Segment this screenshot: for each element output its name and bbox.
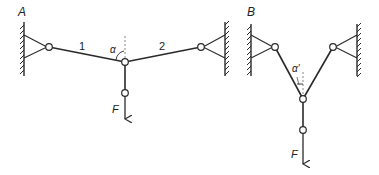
angle-alpha-label: α xyxy=(110,44,116,55)
hinge-icon xyxy=(330,44,337,51)
panel-b-label: B xyxy=(247,5,255,19)
left-wall-support-b xyxy=(247,24,273,76)
angle-alpha-prime-label: α′ xyxy=(292,63,301,74)
panel-a: A 1 2 α F xyxy=(17,5,229,119)
right-wall-support-a xyxy=(203,21,229,76)
bar-2-b xyxy=(303,47,333,99)
angle-arc-a xyxy=(116,51,124,60)
load-hinge-icon xyxy=(300,127,307,134)
hinge-icon xyxy=(198,44,205,51)
force-label-b: F xyxy=(291,148,299,160)
node-hinge-icon xyxy=(122,59,129,66)
load-hinge-icon xyxy=(122,90,129,97)
right-wall-support-b xyxy=(335,23,361,77)
force-label-a: F xyxy=(112,103,120,115)
left-wall-support-a xyxy=(20,22,47,76)
node-hinge-icon xyxy=(300,96,307,103)
panel-b: B α′ F xyxy=(247,5,361,164)
bar-1-label: 1 xyxy=(79,40,85,52)
hinge-icon xyxy=(272,44,279,51)
truss-diagram: A 1 2 α F B xyxy=(0,0,379,175)
panel-a-label: A xyxy=(17,5,26,19)
hinge-icon xyxy=(46,44,53,51)
bar-2-label: 2 xyxy=(159,40,165,52)
